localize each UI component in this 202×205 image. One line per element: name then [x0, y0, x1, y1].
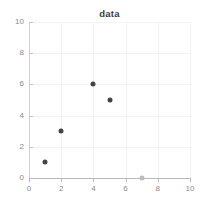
y-axis-tick: [30, 84, 33, 85]
x-axis-line: [29, 178, 191, 179]
x-axis-tick-label: 0: [17, 184, 41, 194]
gridline-horizontal: [29, 53, 190, 54]
gridline-vertical: [158, 22, 159, 178]
chart-title: data: [29, 8, 190, 20]
y-axis-tick-label: 0: [2, 173, 24, 183]
y-axis-tick: [30, 147, 33, 148]
gridline-vertical: [190, 22, 191, 178]
data-point: [107, 98, 112, 103]
data-point: [43, 160, 48, 165]
data-point: [91, 82, 96, 87]
gridline-horizontal: [29, 22, 190, 23]
gridline-horizontal: [29, 116, 190, 117]
x-axis-tick: [190, 179, 191, 182]
x-axis-tick-label: 2: [49, 184, 73, 194]
x-axis-tick: [29, 179, 30, 182]
y-axis-tick-label: 2: [2, 142, 24, 152]
y-axis-tick-label: 8: [2, 48, 24, 58]
gridline-vertical: [93, 22, 94, 178]
y-axis-line: [29, 22, 30, 179]
x-axis-tick-label: 10: [178, 184, 202, 194]
x-axis-tick: [126, 179, 127, 182]
plot-area: [29, 22, 190, 178]
x-axis-tick: [61, 179, 62, 182]
y-axis-tick: [30, 53, 33, 54]
data-point: [59, 129, 64, 134]
gridline-vertical: [126, 22, 127, 178]
y-axis-tick-label: 10: [2, 17, 24, 27]
gridline-horizontal: [29, 147, 190, 148]
x-axis-tick-label: 4: [81, 184, 105, 194]
y-axis-tick: [30, 178, 33, 179]
gridline-vertical: [61, 22, 62, 178]
scatter-plot-figure: data 0246810 0246810: [0, 0, 202, 205]
y-axis-tick-label: 6: [2, 79, 24, 89]
y-axis-tick-label: 4: [2, 111, 24, 121]
x-axis-tick-label: 8: [146, 184, 170, 194]
x-axis-tick: [93, 179, 94, 182]
y-axis-tick: [30, 116, 33, 117]
x-axis-tick: [158, 179, 159, 182]
gridline-horizontal: [29, 84, 190, 85]
y-axis-tick: [30, 22, 33, 23]
x-axis-tick-label: 6: [114, 184, 138, 194]
